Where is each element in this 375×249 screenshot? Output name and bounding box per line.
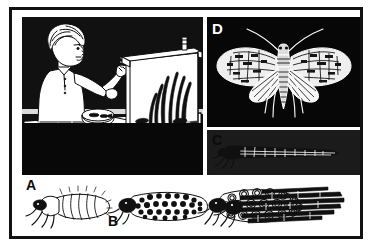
- larva-in-case-artwork: [207, 130, 360, 175]
- panel-label-d: D: [212, 21, 223, 36]
- aerator-fitting: [179, 31, 190, 50]
- specimen-artwork: [22, 178, 354, 235]
- figure-border: D: [9, 7, 363, 239]
- panel-label-c: C: [212, 133, 222, 147]
- specimen-sand-case: [108, 192, 208, 224]
- scene-floor: [22, 123, 203, 175]
- adult-caddisfly-artwork: [207, 17, 360, 127]
- panel-larva-in-case: C: [207, 130, 360, 175]
- specimen-label-a: A: [26, 178, 36, 192]
- panel-adult-caddisfly: D: [207, 17, 360, 127]
- specimen-label-b: B: [108, 214, 118, 228]
- figure-root: D: [0, 0, 375, 249]
- abdomen: [278, 67, 289, 109]
- panel-specimens: A B: [22, 178, 354, 235]
- specimen-naked-larva: [26, 186, 112, 228]
- panel-scene: [22, 17, 203, 175]
- head: [278, 44, 289, 55]
- thorax: [277, 55, 290, 67]
